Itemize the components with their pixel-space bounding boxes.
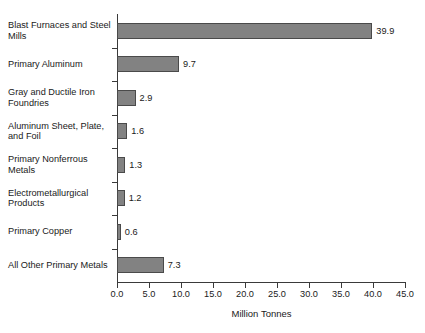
- y-axis-tick: [112, 249, 117, 250]
- x-axis-tick: [309, 283, 310, 288]
- bar: [117, 23, 372, 39]
- bar: [117, 257, 164, 273]
- bar-value-label: 2.9: [140, 90, 153, 106]
- bar-value-label: 0.6: [125, 224, 138, 240]
- y-axis-tick: [112, 48, 117, 49]
- category-label: Gray and Ductile Iron Foundries: [8, 87, 112, 108]
- bar: [117, 123, 127, 139]
- x-axis-tick: [213, 283, 214, 288]
- x-axis-line: [117, 282, 406, 283]
- x-axis-tick: [149, 283, 150, 288]
- y-axis-tick: [112, 115, 117, 116]
- category-label: Primary Nonferrous Metals: [8, 154, 112, 175]
- y-axis-tick: [112, 182, 117, 183]
- y-axis-tick: [112, 81, 117, 82]
- category-label: Primary Aluminum: [8, 59, 112, 70]
- y-axis-tick: [112, 148, 117, 149]
- x-axis-tick: [181, 283, 182, 288]
- x-axis-tick: [373, 283, 374, 288]
- chart-title-clipped: s Metal Industries: [6, 0, 266, 3]
- category-label: Aluminum Sheet, Plate, and Foil: [8, 121, 112, 142]
- bar-value-label: 7.3: [168, 257, 181, 273]
- bar-value-label: 1.2: [129, 190, 142, 206]
- bar: [117, 90, 136, 106]
- x-axis-title: Million Tonnes: [117, 308, 406, 319]
- bar-value-label: 9.7: [183, 56, 196, 72]
- bar: [117, 224, 121, 240]
- y-axis-tick: [112, 215, 117, 216]
- category-label: Blast Furnaces and Steel Mills: [8, 20, 112, 41]
- bar-chart: s Metal Industries Blast Furnaces and St…: [0, 0, 425, 333]
- x-axis-tick: [117, 283, 118, 288]
- bar: [117, 157, 125, 173]
- x-axis-tick: [277, 283, 278, 288]
- chart-title-text: s Metal Industries: [6, 0, 266, 3]
- category-label: Primary Copper: [8, 226, 112, 237]
- bar-value-label: 1.3: [129, 157, 142, 173]
- bar: [117, 56, 179, 72]
- x-axis-tick-label: 45.0: [385, 289, 425, 300]
- y-axis-line: [117, 14, 118, 283]
- x-axis-tick: [245, 283, 246, 288]
- bar-value-label: 1.6: [131, 123, 144, 139]
- bar: [117, 190, 125, 206]
- x-axis-tick: [341, 283, 342, 288]
- x-axis-tick: [405, 283, 406, 288]
- category-label: All Other Primary Metals: [8, 260, 112, 271]
- bar-value-label: 39.9: [376, 23, 394, 39]
- category-label: Electrometallurgical Products: [8, 188, 112, 209]
